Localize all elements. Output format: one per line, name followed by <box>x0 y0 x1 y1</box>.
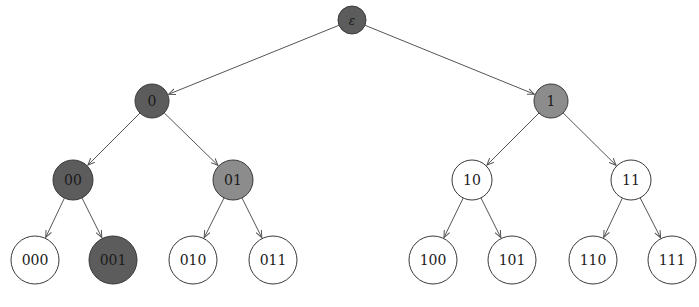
tree-node-1: 1 <box>534 84 568 118</box>
node-label: 1 <box>547 93 556 109</box>
tree-node-110: 110 <box>569 236 617 284</box>
edge-11-to-111 <box>640 198 660 238</box>
tree-node-010: 010 <box>169 236 217 284</box>
node-label: 101 <box>499 252 526 268</box>
node-label: 010 <box>180 252 207 268</box>
tree-node-10: 10 <box>452 160 492 200</box>
tree-node-01: 01 <box>213 160 253 200</box>
tree-node-101: 101 <box>488 236 536 284</box>
edge-root-to-1 <box>365 25 534 94</box>
edge-root-to-0 <box>169 25 339 94</box>
tree-node-001: 001 <box>89 236 137 284</box>
edge-1-to-11 <box>563 113 616 165</box>
edge-0-to-01 <box>164 113 218 165</box>
tree-node-root: ε <box>338 6 366 34</box>
node-label: 10 <box>463 172 481 188</box>
node-label: 100 <box>420 252 447 268</box>
node-label: 00 <box>64 172 82 188</box>
edge-00-to-001 <box>82 198 102 238</box>
edge-11-to-110 <box>604 198 623 237</box>
edge-01-to-011 <box>242 198 262 238</box>
binary-tree-diagram: ε0100011011000001010011100101110111 <box>0 0 699 307</box>
edge-10-to-101 <box>481 198 501 238</box>
edge-1-to-10 <box>487 113 539 165</box>
edge-10-to-100 <box>444 198 463 238</box>
node-label: 110 <box>580 252 607 268</box>
node-label: 000 <box>22 252 49 268</box>
node-label: 111 <box>659 252 686 268</box>
tree-node-011: 011 <box>249 236 297 284</box>
edge-01-to-010 <box>204 198 224 238</box>
tree-node-000: 000 <box>11 236 59 284</box>
tree-edges <box>46 25 661 237</box>
node-label: 001 <box>100 252 127 268</box>
tree-node-111: 111 <box>648 236 696 284</box>
node-label: 011 <box>260 252 287 268</box>
node-label: 11 <box>622 172 640 188</box>
tree-node-00: 00 <box>53 160 93 200</box>
edge-00-to-000 <box>46 198 65 237</box>
edge-0-to-00 <box>88 113 140 165</box>
node-label: ε <box>349 14 355 28</box>
tree-node-100: 100 <box>409 236 457 284</box>
tree-node-0: 0 <box>135 84 169 118</box>
node-label: 0 <box>148 93 157 109</box>
tree-node-11: 11 <box>611 160 651 200</box>
tree-nodes: ε0100011011000001010011100101110111 <box>11 6 696 284</box>
node-label: 01 <box>224 172 242 188</box>
